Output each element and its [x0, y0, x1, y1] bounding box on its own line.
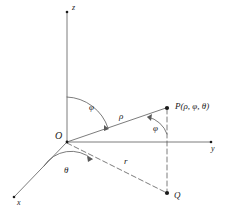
phi-top-arc	[67, 97, 108, 128]
point-p-dot	[165, 106, 169, 110]
rho-segment-line	[67, 108, 166, 142]
z-axis-label: z	[72, 4, 75, 12]
point-p-label: P(ρ, φ, θ)	[175, 102, 209, 111]
x-axis-tip-dot	[13, 196, 16, 199]
point-q-dot	[165, 191, 169, 195]
z-axis-tip-dot	[66, 11, 69, 14]
phi-at-p-arrowhead	[147, 114, 152, 121]
origin-dot	[66, 141, 69, 144]
x-axis-line	[15, 142, 67, 196]
y-axis-tip-dot	[210, 141, 213, 144]
rho-label: ρ	[119, 112, 123, 121]
theta-label: θ	[64, 166, 68, 175]
spherical-coordinates-figure: z y x O P(ρ, φ, θ) Q ρ r φ φ θ	[0, 0, 225, 212]
r-segment-line	[67, 143, 165, 192]
phi-top-label: φ	[89, 103, 94, 112]
y-axis-label: y	[211, 145, 215, 153]
x-axis-label: x	[17, 199, 21, 207]
phi-at-p-label: φ	[153, 124, 158, 133]
r-label: r	[124, 157, 128, 166]
point-q-label: Q	[174, 191, 181, 200]
origin-label: O	[55, 131, 62, 141]
